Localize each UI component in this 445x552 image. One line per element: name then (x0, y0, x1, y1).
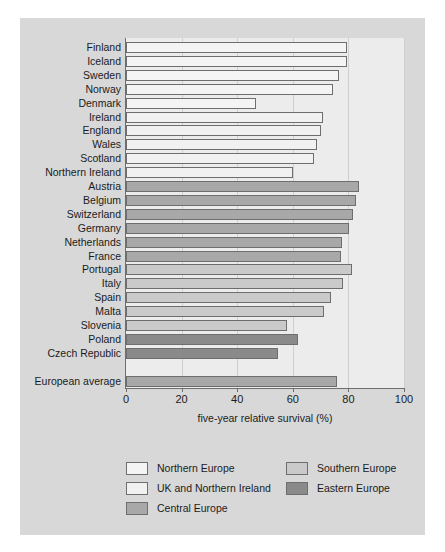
bar (126, 56, 347, 67)
x-axis-title: five-year relative survival (%) (126, 412, 404, 424)
bar-row: Poland (126, 334, 404, 345)
legend-item-uk[interactable]: UK and Northern Ireland (126, 478, 271, 498)
bar (126, 125, 321, 136)
bar-row: Denmark (126, 98, 404, 109)
legend-label-uk: UK and Northern Ireland (157, 482, 271, 494)
bar-row: Wales (126, 139, 404, 150)
x-tick-label-40: 40 (231, 393, 243, 405)
bar (126, 153, 314, 164)
category-label: Sweden (83, 68, 121, 82)
bar (126, 278, 343, 289)
legend-item-northern[interactable]: Northern Europe (126, 458, 271, 478)
legend-swatch-central (126, 502, 148, 515)
bar-row: Scotland (126, 153, 404, 164)
bar-row: Spain (126, 292, 404, 303)
bar (126, 292, 331, 303)
bar (126, 167, 293, 178)
legend-label-eastern: Eastern Europe (317, 482, 390, 494)
category-label: Ireland (89, 110, 121, 124)
bar (126, 112, 323, 123)
bar (126, 139, 317, 150)
category-label: Belgium (83, 193, 121, 207)
bar-row: Czech Republic (126, 348, 404, 359)
bar-row: Malta (126, 306, 404, 317)
legend-item-southern[interactable]: Southern Europe (286, 458, 396, 478)
bar (126, 223, 349, 234)
bar-row: Germany (126, 223, 404, 234)
x-tick-0 (126, 388, 127, 392)
bar-row: Northern Ireland (126, 167, 404, 178)
category-label: Switzerland (67, 207, 121, 221)
bar (126, 70, 339, 81)
bar (126, 320, 287, 331)
bar-row: Sweden (126, 70, 404, 81)
bar (126, 264, 352, 275)
bar-row: Norway (126, 84, 404, 95)
category-label: Iceland (87, 54, 121, 68)
category-label: Italy (102, 276, 121, 290)
bar-row: Portugal (126, 264, 404, 275)
x-axis-line (125, 388, 405, 389)
bar-row: Slovenia (126, 320, 404, 331)
legend-item-central[interactable]: Central Europe (126, 498, 271, 518)
category-label: Malta (95, 304, 121, 318)
category-label: Portugal (82, 262, 121, 276)
bar-row: Belgium (126, 195, 404, 206)
bar (126, 42, 347, 53)
legend-label-central: Central Europe (157, 502, 228, 514)
bar-row: Italy (126, 278, 404, 289)
bar-row: France (126, 251, 404, 262)
category-label: Germany (78, 221, 121, 235)
legend-column-right: Southern EuropeEastern Europe (286, 458, 396, 498)
bar-row: European average (126, 376, 404, 387)
bar (126, 195, 356, 206)
x-tick-label-60: 60 (287, 393, 299, 405)
legend-swatch-eastern (286, 482, 308, 495)
bar (126, 376, 337, 387)
category-label: Spain (94, 290, 121, 304)
category-label: Scotland (80, 151, 121, 165)
bar (126, 251, 341, 262)
category-label: Czech Republic (47, 346, 121, 360)
category-label: Northern Ireland (45, 165, 121, 179)
bar (126, 348, 278, 359)
category-label: European average (35, 374, 121, 388)
category-label: Poland (88, 332, 121, 346)
x-tick-40 (237, 388, 238, 392)
legend-column-left: Northern EuropeUK and Northern IrelandCe… (126, 458, 271, 518)
category-label: England (82, 123, 121, 137)
x-tick-60 (293, 388, 294, 392)
category-label: Denmark (78, 96, 121, 110)
legend-item-eastern[interactable]: Eastern Europe (286, 478, 396, 498)
gridline-100 (404, 38, 405, 388)
category-label: Finland (87, 40, 121, 54)
x-tick-80 (348, 388, 349, 392)
bar-row: Iceland (126, 56, 404, 67)
x-tick-20 (182, 388, 183, 392)
bar (126, 181, 359, 192)
category-label: Wales (92, 137, 121, 151)
x-tick-label-20: 20 (175, 393, 187, 405)
legend-swatch-northern (126, 462, 148, 475)
category-label: Austria (88, 179, 121, 193)
x-tick-label-80: 80 (342, 393, 354, 405)
figure: FinlandIcelandSwedenNorwayDenmarkIreland… (0, 0, 445, 552)
bar (126, 334, 298, 345)
legend-label-northern: Northern Europe (157, 462, 235, 474)
legend-swatch-uk (126, 482, 148, 495)
bar-row: Austria (126, 181, 404, 192)
bar (126, 237, 342, 248)
category-label: Slovenia (81, 318, 121, 332)
plot-inner: FinlandIcelandSwedenNorwayDenmarkIreland… (126, 38, 404, 388)
x-tick-label-100: 100 (395, 393, 413, 405)
x-tick-100 (404, 388, 405, 392)
bar-row: Netherlands (126, 237, 404, 248)
category-label: Netherlands (64, 235, 121, 249)
bar-row: Ireland (126, 112, 404, 123)
bar-row: Switzerland (126, 209, 404, 220)
bar (126, 84, 333, 95)
legend-swatch-southern (286, 462, 308, 475)
category-label: Norway (85, 82, 121, 96)
legend-label-southern: Southern Europe (317, 462, 396, 474)
bar (126, 98, 256, 109)
